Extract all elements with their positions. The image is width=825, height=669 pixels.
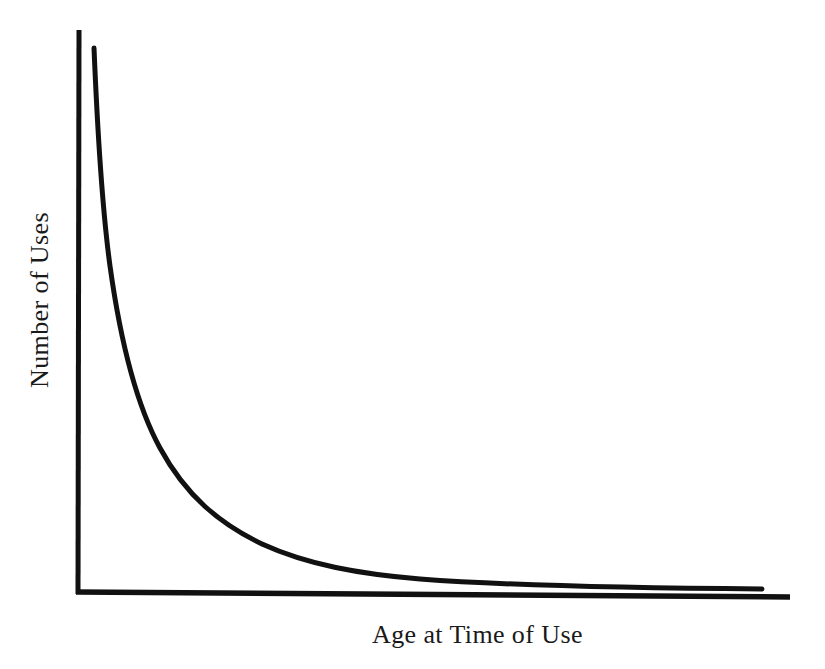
y-axis-label: Number of Uses xyxy=(20,180,60,420)
x-axis-line xyxy=(76,592,790,597)
chart-figure: Number of Uses Age at Time of Use xyxy=(0,0,825,669)
chart-plot-area xyxy=(0,0,825,669)
x-axis-label: Age at Time of Use xyxy=(372,620,583,650)
decay-curve xyxy=(94,48,762,589)
y-axis-line xyxy=(78,30,79,594)
